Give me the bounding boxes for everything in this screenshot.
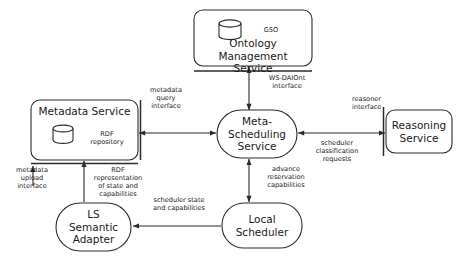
node-local-scheduler <box>222 203 302 248</box>
node-ontology-management-service <box>194 10 312 66</box>
node-reasoning-service <box>386 110 452 153</box>
node-metadata-service <box>31 100 138 160</box>
architecture-diagram: Ontology Management Service GSO Metadata… <box>0 0 456 258</box>
diagram-shapes-layer <box>0 0 456 258</box>
node-ls-semantic-adapter <box>56 203 131 251</box>
node-meta-scheduling-service <box>217 110 297 158</box>
